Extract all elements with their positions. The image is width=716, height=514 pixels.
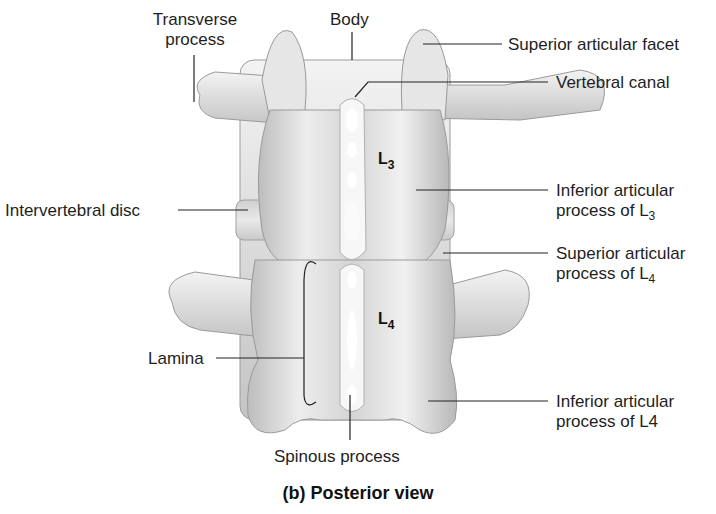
figure-caption: (b) Posterior view bbox=[0, 483, 716, 504]
vertebra-label-l4: L4 bbox=[378, 310, 394, 328]
label-superior-articular-process-l4: Superior articular process of L4 bbox=[556, 244, 685, 284]
label-superior-articular-facet: Superior articular facet bbox=[508, 35, 679, 55]
label-intervertebral-disc: Intervertebral disc bbox=[5, 201, 140, 221]
label-body: Body bbox=[330, 10, 369, 30]
label-inferior-articular-process-l3: Inferior articular process of L3 bbox=[556, 181, 674, 221]
label-transverse-process: Transverse process bbox=[145, 10, 245, 50]
label-spinous-process: Spinous process bbox=[274, 447, 400, 467]
anatomy-figure: L3 L4 Transverse process Body Superior a… bbox=[0, 0, 716, 514]
vertebra-label-l3: L3 bbox=[378, 150, 394, 168]
label-vertebral-canal: Vertebral canal bbox=[556, 73, 669, 93]
label-inferior-articular-process-l4: Inferior articular process of L4 bbox=[556, 392, 674, 432]
spinous-process-ridge bbox=[340, 99, 366, 412]
label-lamina: Lamina bbox=[148, 349, 204, 369]
